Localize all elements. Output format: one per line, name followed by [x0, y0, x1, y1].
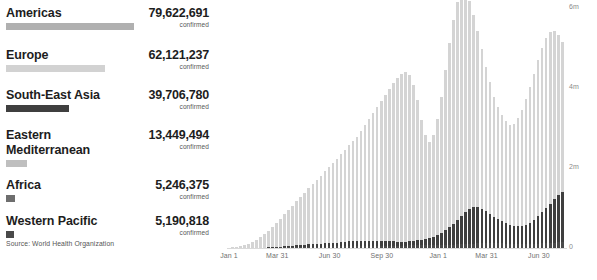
chart-bar[interactable] [255, 240, 258, 248]
chart-bar[interactable] [356, 137, 359, 248]
chart-bar[interactable] [501, 115, 504, 248]
chart-bar-segment [388, 89, 391, 241]
legend-row[interactable]: Africa5,246,375confirmed [6, 178, 211, 202]
chart-bar[interactable] [380, 101, 383, 248]
legend-row[interactable]: South-East Asia39,706,780confirmed [6, 88, 211, 112]
chart-bar[interactable] [324, 171, 327, 248]
chart-bar[interactable] [537, 60, 540, 248]
chart-bar[interactable] [468, 1, 471, 248]
chart-bar[interactable] [460, 0, 463, 248]
chart-bar[interactable] [424, 135, 427, 248]
chart-bar[interactable] [360, 131, 363, 248]
chart-bar[interactable] [472, 15, 475, 248]
chart-bar[interactable] [452, 20, 455, 248]
chart-bar[interactable] [332, 163, 335, 248]
chart-bar[interactable] [404, 72, 407, 248]
chart-bar[interactable] [408, 75, 411, 248]
legend-region-label: Africa [6, 178, 131, 192]
chart-bar[interactable] [412, 85, 415, 248]
chart-bar[interactable] [388, 89, 391, 248]
chart-bar[interactable] [464, 0, 467, 248]
chart-bar[interactable] [557, 35, 560, 248]
chart-bar[interactable] [509, 125, 512, 248]
chart-bar[interactable] [259, 237, 262, 248]
chart-bar[interactable] [299, 197, 302, 248]
chart-bar[interactable] [561, 42, 564, 248]
legend-row[interactable]: Europe62,121,237confirmed [6, 48, 211, 72]
chart-bar[interactable] [476, 31, 479, 248]
legend-row[interactable]: Eastern Mediterranean13,449,494confirmed [6, 128, 211, 167]
chart-bar[interactable] [448, 43, 451, 248]
chart-bar[interactable] [485, 67, 488, 248]
chart-bar[interactable] [263, 234, 266, 248]
chart-bar[interactable] [444, 70, 447, 248]
source-note: Source: World Health Organization [6, 240, 114, 247]
chart-bar[interactable] [295, 201, 298, 248]
chart-bar[interactable] [493, 97, 496, 249]
legend-magnitude-bar [6, 65, 105, 72]
chart-bar[interactable] [428, 142, 431, 248]
chart-bar-segment [557, 35, 560, 195]
chart-bar-segment [521, 110, 524, 226]
chart-bar[interactable] [283, 214, 286, 248]
chart-bar[interactable] [267, 231, 270, 248]
legend-confirmed-label: confirmed [123, 143, 209, 151]
legend-color-swatch [6, 231, 14, 238]
chart-bar[interactable] [328, 167, 331, 248]
chart-bar[interactable] [436, 119, 439, 248]
chart-bar-segment [529, 87, 532, 223]
chart-bar[interactable] [271, 227, 274, 248]
chart-bar[interactable] [320, 176, 323, 248]
chart-bar[interactable] [420, 120, 423, 248]
chart-bar[interactable] [553, 31, 556, 248]
chart-bar[interactable] [533, 74, 536, 248]
chart-bar[interactable] [348, 145, 351, 248]
chart-bar-segment [428, 142, 431, 238]
chart-bar[interactable] [376, 107, 379, 248]
chart-bar[interactable] [336, 159, 339, 249]
chart-bar[interactable] [541, 48, 544, 248]
chart-bar[interactable] [316, 180, 319, 248]
chart-bar[interactable] [549, 32, 552, 248]
chart-bar[interactable] [352, 141, 355, 248]
chart-bar[interactable] [275, 223, 278, 248]
chart-bar-segment [364, 125, 367, 241]
chart-bar[interactable] [279, 219, 282, 248]
legend-row[interactable]: Western Pacific5,190,818confirmed [6, 214, 211, 238]
chart-bar[interactable] [525, 99, 528, 248]
chart-bar-segment [368, 119, 371, 241]
chart-bar[interactable] [529, 87, 532, 248]
chart-bar-segment [372, 113, 375, 241]
chart-bar[interactable] [368, 119, 371, 248]
chart-bar[interactable] [505, 121, 508, 248]
chart-bar[interactable] [384, 95, 387, 248]
chart-bar[interactable] [312, 184, 315, 248]
chart-bar[interactable] [416, 100, 419, 248]
chart-bar[interactable] [517, 118, 520, 248]
chart-bar-segment [501, 115, 504, 221]
chart-bar[interactable] [291, 206, 294, 248]
chart-bar[interactable] [521, 110, 524, 248]
chart-bar[interactable] [303, 193, 306, 248]
chart-bar[interactable] [513, 124, 516, 248]
legend-row[interactable]: Americas79,622,691confirmed [6, 6, 211, 30]
chart-bar[interactable] [432, 135, 435, 248]
chart-bar[interactable] [440, 97, 443, 248]
chart-bar[interactable] [287, 210, 290, 248]
chart-bar[interactable] [489, 82, 492, 248]
chart-bar-segment [513, 226, 516, 244]
chart-bar[interactable] [396, 78, 399, 248]
chart-bar[interactable] [340, 154, 343, 248]
y-axis-tick-label: 4m [569, 83, 595, 90]
chart-bar[interactable] [344, 150, 347, 248]
chart-bar[interactable] [400, 74, 403, 248]
chart-bar-segment [424, 135, 427, 239]
chart-bar[interactable] [307, 188, 310, 248]
chart-bar[interactable] [481, 49, 484, 248]
chart-bar[interactable] [392, 83, 395, 248]
chart-bar[interactable] [364, 125, 367, 249]
chart-bar[interactable] [456, 2, 459, 248]
chart-bar[interactable] [545, 38, 548, 248]
chart-bar[interactable] [497, 107, 500, 248]
chart-bar[interactable] [372, 113, 375, 248]
